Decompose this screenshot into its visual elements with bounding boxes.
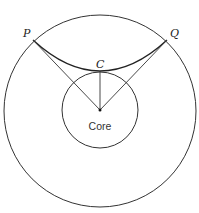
diagram-canvas: P Q C Core	[0, 0, 199, 213]
line-p-center	[33, 40, 100, 110]
label-core: Core	[89, 120, 112, 132]
center-point	[99, 109, 102, 112]
line-q-center	[100, 40, 167, 110]
label-q: Q	[170, 27, 179, 40]
label-p: P	[22, 27, 31, 40]
label-c: C	[96, 58, 105, 71]
